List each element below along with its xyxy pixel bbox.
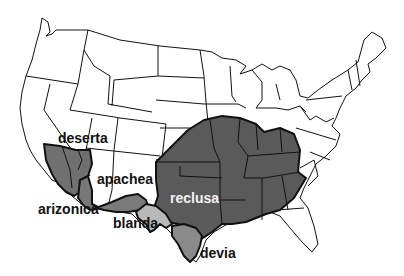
label-deserta: deserta xyxy=(58,131,108,145)
label-apachea: apachea xyxy=(97,172,153,186)
label-reclusa: reclusa xyxy=(170,191,219,205)
label-devia: devia xyxy=(200,246,236,260)
label-arizonica: arizonica xyxy=(38,202,99,216)
label-blanda: blanda xyxy=(113,216,158,230)
